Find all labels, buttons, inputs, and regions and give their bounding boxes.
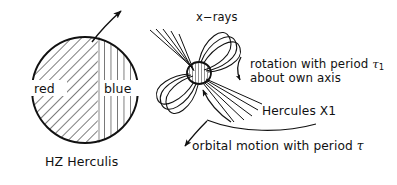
orbital-tau-symbol: τ	[357, 139, 364, 153]
red-hemisphere-label: red	[34, 82, 55, 97]
rotation-axis-label: about own axis	[250, 72, 341, 86]
tau-subscript: 1	[379, 62, 385, 72]
companion-star-label: HZ Herculis	[45, 155, 118, 170]
neutron-star-label: Hercules X1	[262, 104, 336, 118]
orbital-period-text: orbital motion with period	[192, 139, 357, 153]
orbital-period-label: orbital motion with period τ	[192, 139, 364, 153]
orbital-motion-leader-arc	[207, 120, 316, 130]
blue-hemisphere-label: blue	[104, 82, 131, 97]
rotation-axis-arrow	[92, 11, 121, 42]
rotation-period-text: rotation with period	[250, 57, 372, 71]
spin-direction-arrow	[238, 57, 241, 80]
xrays-label: x−rays	[196, 11, 238, 25]
tau-symbol: τ	[372, 57, 379, 71]
xray-beam-upper-fan	[150, 29, 194, 71]
binary-star-diagram: x−rays red blue HZ Herculis rotation wit…	[0, 0, 397, 185]
